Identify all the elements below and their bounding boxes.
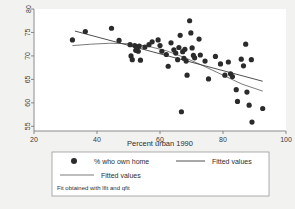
x-tick-label: 20 xyxy=(30,136,38,143)
scatter-point xyxy=(188,30,193,35)
scatter-point xyxy=(187,18,192,23)
scatter-point xyxy=(138,58,143,63)
scatter-point xyxy=(178,33,183,38)
x-tick-label: 40 xyxy=(93,136,101,143)
scatter-point xyxy=(230,74,235,79)
x-tick-label: 80 xyxy=(219,136,227,143)
legend-label-fitted-quadratic: Fitted values xyxy=(101,172,141,179)
scatter-point xyxy=(157,43,162,48)
scatter-point xyxy=(244,89,249,94)
scatter-point xyxy=(218,61,223,66)
y-tick-label: 55 xyxy=(25,122,32,130)
scatter-point xyxy=(241,63,246,68)
scatter-point xyxy=(70,37,75,42)
scatter-point xyxy=(196,36,201,41)
y-tick-label: 70 xyxy=(25,52,32,60)
scatter-point xyxy=(137,43,142,48)
scatter-point xyxy=(226,59,231,64)
scatter-point xyxy=(116,38,121,43)
scatter-point xyxy=(109,26,114,31)
scatter-point xyxy=(198,52,203,57)
y-tick-label: 65 xyxy=(25,75,32,83)
y-tick-label: 80 xyxy=(25,5,32,13)
scatter-point xyxy=(260,106,265,111)
scatter-point xyxy=(192,55,197,60)
legend: % who own home Fitted values Fitted valu… xyxy=(52,152,269,196)
x-tick-label: 100 xyxy=(280,136,292,143)
scatter-point xyxy=(173,51,178,56)
y-axis-ticks: 556065707580 xyxy=(25,5,35,130)
legend-label-own-home: % who own home xyxy=(94,158,149,165)
scatter-point xyxy=(190,45,195,50)
scatter-point xyxy=(234,87,239,92)
x-axis-title: Percent urban 1990 xyxy=(127,139,193,148)
scatter-point xyxy=(130,57,135,62)
scatter-point xyxy=(164,52,169,57)
scatter-point xyxy=(179,109,184,114)
scatter-point xyxy=(150,39,155,44)
plot-area-background xyxy=(34,9,286,131)
scatter-point xyxy=(243,42,248,47)
stata-scatter-figure: 556065707580 20406080100 Percent urban 1… xyxy=(0,0,295,209)
scatter-point xyxy=(176,45,181,50)
scatter-point xyxy=(222,73,227,78)
legend-key-marker xyxy=(71,158,77,164)
scatter-point xyxy=(168,40,173,45)
scatter-point xyxy=(182,47,187,52)
y-tick-label: 60 xyxy=(25,99,32,107)
scatter-point xyxy=(235,99,240,104)
legend-label-fitted-linear: Fitted values xyxy=(212,158,252,165)
scatter-point xyxy=(184,73,189,78)
chart-svg: 556065707580 20406080100 Percent urban 1… xyxy=(0,0,295,209)
legend-note: Fit obtained with lfit and qfit xyxy=(57,185,130,191)
scatter-point xyxy=(202,58,207,63)
scatter-point xyxy=(175,57,180,62)
scatter-point xyxy=(247,103,252,108)
scatter-point xyxy=(127,42,132,47)
y-tick-label: 75 xyxy=(25,28,32,36)
scatter-point xyxy=(83,29,88,34)
scatter-point xyxy=(136,49,141,54)
scatter-point xyxy=(249,119,254,124)
scatter-point xyxy=(249,57,254,62)
scatter-point xyxy=(159,49,164,54)
scatter-point xyxy=(206,76,211,81)
scatter-point xyxy=(166,64,171,69)
scatter-point xyxy=(184,58,189,63)
scatter-point xyxy=(156,37,161,42)
scatter-point xyxy=(239,57,244,62)
scatter-point xyxy=(213,54,218,59)
